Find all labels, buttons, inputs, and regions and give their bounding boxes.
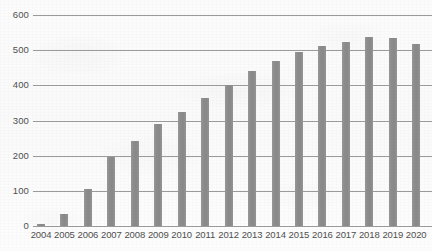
bar-2007 xyxy=(107,157,115,226)
bar-2016 xyxy=(318,46,326,226)
gridline-0 xyxy=(33,226,432,227)
y-axis-tick-labels: 0100200300400500600 xyxy=(0,15,29,226)
bar-2014 xyxy=(272,61,280,226)
plot-area xyxy=(33,15,432,226)
y-tick-label-600: 600 xyxy=(0,10,29,20)
y-tick-label-200: 200 xyxy=(0,151,29,161)
bar-2018 xyxy=(365,37,373,226)
gridline-600 xyxy=(33,15,432,16)
x-tick-label-2020: 2020 xyxy=(401,230,431,240)
bar-2011 xyxy=(201,98,209,226)
y-tick-label-500: 500 xyxy=(0,45,29,55)
x-axis-tick-labels: 2004200520062007200820092010201120122013… xyxy=(0,230,432,248)
bar-2009 xyxy=(154,124,162,226)
bar-2010 xyxy=(178,112,186,226)
y-tick-label-100: 100 xyxy=(0,186,29,196)
bar-2006 xyxy=(84,189,92,226)
bar-2004 xyxy=(37,224,45,226)
bar-2020 xyxy=(412,44,420,226)
y-tick-label-300: 300 xyxy=(0,116,29,126)
bar-2008 xyxy=(131,141,139,226)
y-tick-label-400: 400 xyxy=(0,81,29,91)
bar-2013 xyxy=(248,71,256,226)
bar-2015 xyxy=(295,52,303,226)
bar-chart: 0100200300400500600 20042005200620072008… xyxy=(0,0,432,251)
bar-2005 xyxy=(60,214,68,226)
bar-2012 xyxy=(225,85,233,226)
bar-2019 xyxy=(389,38,397,226)
bar-2017 xyxy=(342,42,350,226)
